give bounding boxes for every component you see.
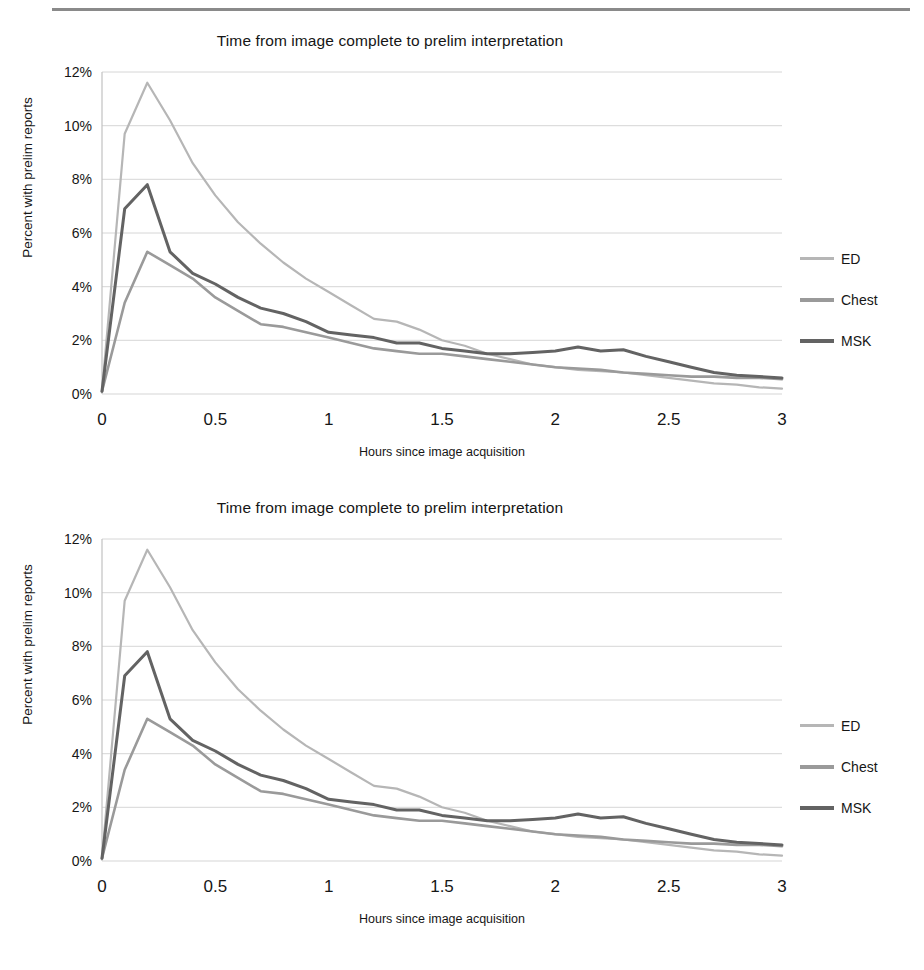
legend-swatch-ed-icon <box>800 257 834 260</box>
y-tick-label: 10% <box>64 585 92 601</box>
series-line-chest <box>102 252 782 391</box>
legend-item-chest[interactable]: Chest <box>800 279 918 320</box>
legend-label-chest: Chest <box>841 759 878 775</box>
y-tick-label: 10% <box>64 118 92 134</box>
x-tick-label: 1.5 <box>430 877 454 896</box>
y-tick-label: 4% <box>72 746 92 762</box>
plot-area-bottom: Percent with prelim reports 0%2%4%6%8%10… <box>0 487 924 957</box>
legend-item-chest[interactable]: Chest <box>800 746 918 787</box>
chart-legend: ED Chest MSK <box>800 238 918 361</box>
legend-item-ed[interactable]: ED <box>800 238 918 279</box>
x-tick-label: 1 <box>324 410 333 429</box>
legend-swatch-chest-icon <box>800 298 834 302</box>
legend-label-msk: MSK <box>841 800 871 816</box>
y-tick-label: 12% <box>64 531 92 547</box>
y-axis-label: Percent with prelim reports <box>20 63 35 293</box>
y-tick-label: 12% <box>64 64 92 80</box>
y-axis-label: Percent with prelim reports <box>20 530 35 760</box>
x-tick-label: 0 <box>97 410 106 429</box>
chart-figure-top: Time from image complete to prelim inter… <box>0 20 924 490</box>
legend-swatch-chest-icon <box>800 765 834 769</box>
x-tick-label: 0 <box>97 877 106 896</box>
x-tick-label: 0.5 <box>203 410 227 429</box>
line-chart-svg: 0%2%4%6%8%10%12%00.511.522.53 <box>0 20 924 490</box>
x-tick-label: 0.5 <box>203 877 227 896</box>
legend-label-ed: ED <box>841 251 860 267</box>
x-tick-label: 1 <box>324 877 333 896</box>
plot-area-top: Percent with prelim reports 0%2%4%6%8%10… <box>0 20 924 490</box>
legend-swatch-ed-icon <box>800 724 834 727</box>
y-tick-label: 8% <box>72 171 92 187</box>
y-tick-label: 0% <box>72 386 92 402</box>
legend-item-msk[interactable]: MSK <box>800 787 918 828</box>
x-tick-label: 3 <box>777 410 786 429</box>
y-tick-label: 2% <box>72 799 92 815</box>
y-tick-label: 4% <box>72 279 92 295</box>
legend-label-msk: MSK <box>841 333 871 349</box>
x-tick-label: 2 <box>551 877 560 896</box>
line-chart-svg: 0%2%4%6%8%10%12%00.511.522.53 <box>0 487 924 957</box>
legend-swatch-msk-icon <box>800 339 834 343</box>
x-tick-label: 3 <box>777 877 786 896</box>
x-tick-label: 2.5 <box>657 410 681 429</box>
x-axis-label: Hours since image acquisition <box>102 912 782 926</box>
figure-page: Time from image complete to prelim inter… <box>0 0 924 970</box>
chart-legend: ED Chest MSK <box>800 705 918 828</box>
y-tick-label: 2% <box>72 332 92 348</box>
x-tick-label: 1.5 <box>430 410 454 429</box>
legend-item-ed[interactable]: ED <box>800 705 918 746</box>
chart-figure-bottom: Time from image complete to prelim inter… <box>0 487 924 957</box>
series-line-chest <box>102 719 782 859</box>
y-tick-label: 8% <box>72 638 92 654</box>
x-axis-label: Hours since image acquisition <box>102 445 782 459</box>
x-tick-label: 2 <box>551 410 560 429</box>
series-line-ed <box>102 550 782 859</box>
legend-item-msk[interactable]: MSK <box>800 320 918 361</box>
x-tick-label: 2.5 <box>657 877 681 896</box>
legend-label-ed: ED <box>841 718 860 734</box>
legend-label-chest: Chest <box>841 292 878 308</box>
y-tick-label: 0% <box>72 853 92 869</box>
page-top-rule <box>52 8 910 11</box>
y-tick-label: 6% <box>72 225 92 241</box>
series-line-ed <box>102 83 782 392</box>
y-tick-label: 6% <box>72 692 92 708</box>
legend-swatch-msk-icon <box>800 806 834 810</box>
